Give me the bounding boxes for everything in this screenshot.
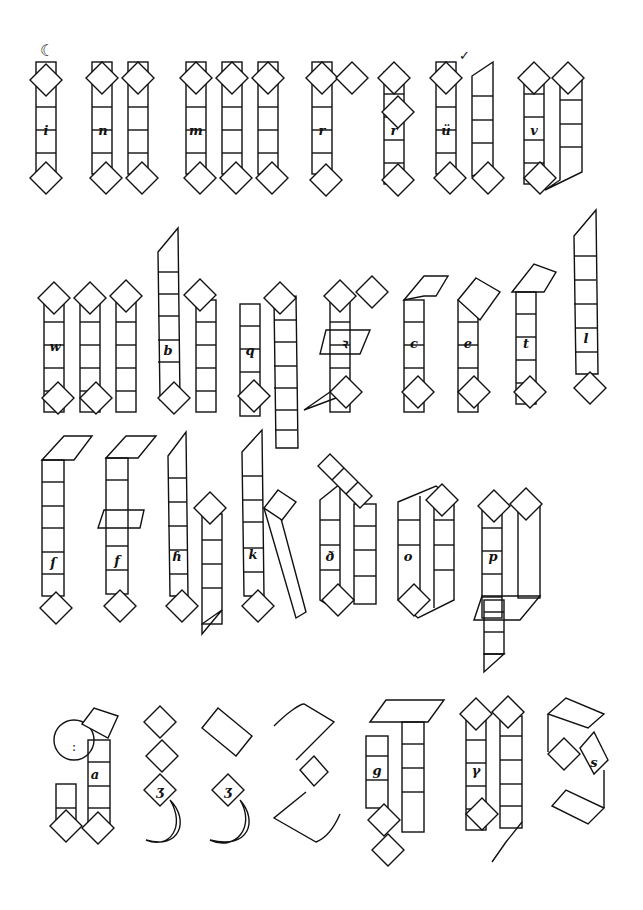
letter-y [460,696,524,862]
label-y: γ [472,764,481,777]
label-r-round: r [391,124,398,137]
u-umlaut-mark: ✓ [459,48,470,63]
label-e: e [464,337,472,350]
letter-g [366,700,444,866]
label-long-s: ſ [50,556,56,569]
letter-h [166,432,226,634]
label-s: s [590,756,597,769]
label-u-umlaut: ü [441,124,450,137]
letter-l [574,210,606,404]
a-colon-mark: : [72,740,76,754]
label-p: p [488,550,497,563]
label-r: r [319,124,326,137]
letter-b [158,228,216,414]
letter-long-s [40,436,92,624]
letter-s [548,698,608,824]
label-o: o [404,550,413,563]
label-t: t [523,337,529,350]
label-m: m [189,124,203,137]
letter-c [402,276,448,412]
label-a: a [91,768,99,781]
label-i: i [44,124,49,137]
letter-f [98,436,156,622]
letter-t [512,264,556,408]
letter-d [318,454,376,616]
label-w: w [49,340,60,353]
letter-n [86,62,158,194]
letter-z [274,704,340,842]
letter-p [474,488,542,672]
label-z-tailed-1: ʒ [156,784,163,797]
letter-v [518,62,584,194]
letter-q [238,282,298,448]
label-r-rotunda: ꝛ [341,337,347,350]
label-l: l [584,332,589,345]
letter-z-tailed-1 [144,706,180,842]
letter-r [306,62,368,196]
label-d: ð [326,550,335,563]
letter-construction-diagram: i n m r r ü v w b q ꝛ c e t l ſ f ɦ k ð … [0,0,643,910]
i-dot-mark: ☾ [40,41,54,60]
label-h: ɦ [172,550,181,563]
label-z-tailed-2: ʒ [224,784,231,797]
label-n: n [98,124,107,137]
label-q: q [245,344,254,357]
label-f: f [114,554,120,567]
label-v: v [530,124,538,137]
letter-k [242,430,306,622]
label-c: c [410,337,418,350]
letter-z-tailed-2 [202,708,252,843]
label-b: b [163,344,172,357]
label-k: k [248,548,257,561]
label-g: g [372,764,381,777]
letter-a [50,708,118,844]
